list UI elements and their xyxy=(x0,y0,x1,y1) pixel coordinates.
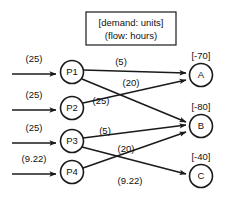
edge-flow-label-p1-a: (5) xyxy=(115,56,127,67)
edge-p1-a xyxy=(83,70,186,73)
demand-label-a: [-70] xyxy=(191,50,210,61)
supply-flow-label-p3: (25) xyxy=(26,122,43,133)
node-label-b: B xyxy=(198,120,204,131)
node-label-a: A xyxy=(198,69,205,80)
flow-network-diagram: [demand: units] (flow: hours) (25) (25) … xyxy=(0,0,231,200)
plant-nodes: P1 P2 P3 P4 xyxy=(61,61,84,184)
node-label-c: C xyxy=(198,170,205,181)
edge-p4-b xyxy=(83,132,186,168)
edge-flow-label-p1-b: (20) xyxy=(123,77,140,88)
legend-box: [demand: units] (flow: hours) xyxy=(86,12,176,45)
edge-flow-label-p3-c: (20) xyxy=(118,143,135,154)
legend-line-flow: (flow: hours) xyxy=(105,30,157,41)
node-label-p3: P3 xyxy=(66,135,78,146)
supply-flow-label-p2: (25) xyxy=(26,89,43,100)
supply-flow-label-p4: (9.22) xyxy=(22,153,47,164)
node-label-p4: P4 xyxy=(66,166,78,177)
demand-label-c: [-40] xyxy=(191,151,210,162)
destination-nodes: A B C xyxy=(190,64,213,188)
transport-edges: (5) (20) (25) (5) (20) (9.22) xyxy=(82,56,186,186)
legend-line-demand: [demand: units] xyxy=(99,17,164,28)
edge-flow-label-p3-b: (5) xyxy=(99,125,111,136)
supply-arrows: (25) (25) (25) (9.22) xyxy=(12,53,56,174)
node-label-p2: P2 xyxy=(66,102,78,113)
demand-label-b: [-80] xyxy=(191,101,210,112)
supply-flow-label-p1: (25) xyxy=(26,53,43,64)
edge-flow-label-p4-b: (9.22) xyxy=(118,175,143,186)
edge-flow-label-p2-a: (25) xyxy=(93,95,110,106)
node-label-p1: P1 xyxy=(66,66,78,77)
network-diagram-canvas: [demand: units] (flow: hours) (25) (25) … xyxy=(0,0,231,200)
